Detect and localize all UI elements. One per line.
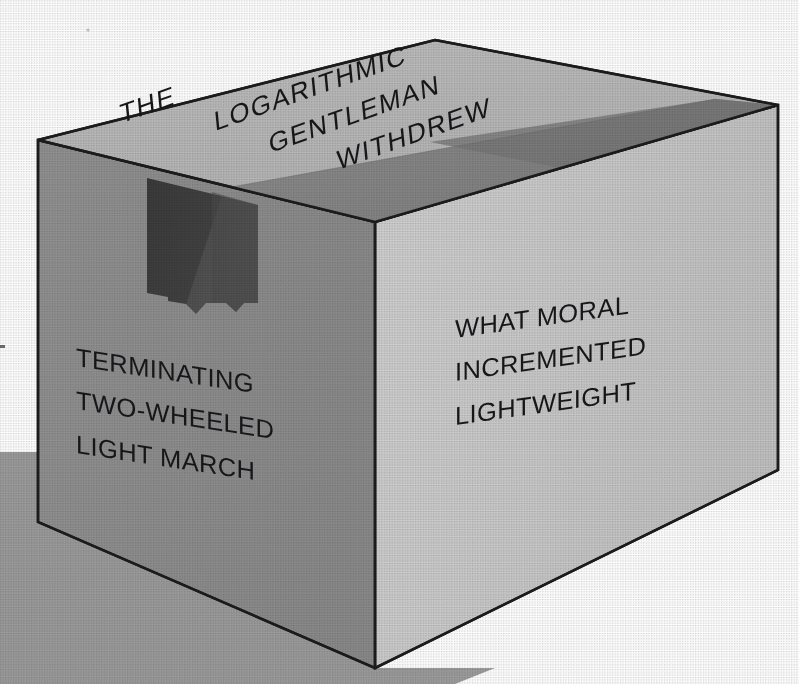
ink-fleck (0, 345, 5, 348)
illustration-canvas: THE LOGARITHMIC GENTLEMAN WITHDREW TERMI… (0, 0, 799, 684)
right-face-text: WHAT MORAL INCREMENTED LIGHTWEIGHT (455, 281, 646, 438)
ink-speck (86, 28, 89, 31)
